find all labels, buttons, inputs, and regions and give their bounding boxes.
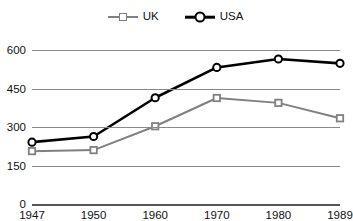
data-point-uk-1947[interactable] — [29, 148, 35, 154]
data-point-uk-1980[interactable] — [275, 100, 281, 106]
y-axis-tick-label: 600 — [7, 44, 26, 56]
y-axis-tick-label: 150 — [7, 160, 26, 172]
gridline — [32, 127, 340, 128]
data-point-uk-1989[interactable] — [337, 115, 343, 121]
data-point-usa-1970[interactable] — [213, 64, 220, 71]
y-axis-tick-label: 300 — [7, 121, 26, 133]
square-marker-icon — [108, 12, 138, 23]
data-point-uk-1970[interactable] — [214, 95, 220, 101]
data-point-usa-1989[interactable] — [336, 60, 343, 67]
data-point-usa-1947[interactable] — [28, 139, 35, 146]
legend-item-uk[interactable]: UK — [108, 11, 159, 23]
gridline — [32, 50, 340, 51]
data-point-usa-1950[interactable] — [90, 133, 97, 140]
series-line-uk — [32, 98, 340, 151]
data-point-usa-1980[interactable] — [275, 55, 282, 62]
x-axis-tick-label: 1947 — [19, 209, 45, 221]
x-axis-line — [32, 204, 340, 206]
legend-label-usa: USA — [220, 11, 244, 23]
legend-label-uk: UK — [143, 11, 159, 23]
gridline — [32, 166, 340, 167]
chart-title — [0, 0, 351, 1]
plot-area: 0150300450600194719501960197019801989 — [32, 50, 340, 204]
circle-marker-icon — [185, 12, 215, 23]
gridline — [32, 89, 340, 90]
x-axis-tick-label: 1950 — [81, 209, 107, 221]
y-axis-tick-label: 450 — [7, 83, 26, 95]
legend-item-usa[interactable]: USA — [185, 11, 244, 23]
x-axis-tick-label: 1960 — [142, 209, 168, 221]
chart-legend: UK USA — [0, 9, 351, 25]
series-line-usa — [32, 59, 340, 142]
x-axis-tick-label: 1980 — [266, 209, 292, 221]
x-axis-tick-label: 1970 — [204, 209, 230, 221]
data-point-usa-1960[interactable] — [152, 94, 159, 101]
data-point-uk-1950[interactable] — [90, 147, 96, 153]
x-axis-tick-label: 1989 — [327, 209, 353, 221]
